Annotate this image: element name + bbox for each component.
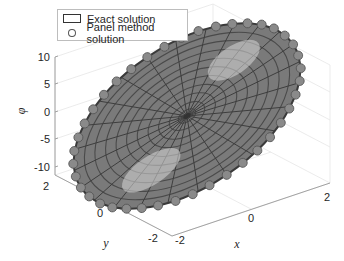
x-tick-0: 0 xyxy=(248,212,254,224)
x-axis-label: x xyxy=(233,237,240,251)
circle-marker-icon xyxy=(68,29,76,37)
z-tick-5: 5 xyxy=(44,78,50,90)
y-tick-minus2: -2 xyxy=(148,232,158,244)
legend-label-panel: Panel method solution xyxy=(87,21,187,45)
z-tick-0: 0 xyxy=(44,106,50,118)
x-tick-minus2: -2 xyxy=(175,234,185,246)
z-tick-minus5: -5 xyxy=(40,133,50,145)
z-tick-minus10: -10 xyxy=(34,161,50,173)
x-tick-2: 2 xyxy=(324,191,330,203)
legend: Exact solution Panel method solution xyxy=(57,9,188,41)
z-axis-label: φ xyxy=(14,107,28,114)
y-tick-2: 2 xyxy=(43,180,49,192)
legend-item-panel: Panel method solution xyxy=(58,25,187,40)
z-tick-10: 10 xyxy=(38,51,50,63)
rectangle-line-icon xyxy=(63,14,81,23)
y-tick-0: 0 xyxy=(97,207,103,219)
y-axis-label: y xyxy=(102,236,109,250)
